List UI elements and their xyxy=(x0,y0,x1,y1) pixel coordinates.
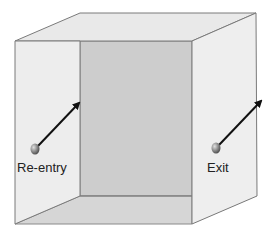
left-wall xyxy=(15,41,80,224)
re-entry-label: Re-entry xyxy=(17,160,67,175)
box-diagram: Re-entry Exit xyxy=(0,0,274,237)
back-wall xyxy=(80,41,192,196)
diagram-canvas: Re-entry Exit xyxy=(0,0,274,237)
right-wall xyxy=(192,13,257,224)
re-entry-ball-icon xyxy=(31,144,40,155)
exit-ball-icon xyxy=(212,143,221,154)
exit-label: Exit xyxy=(207,160,229,175)
